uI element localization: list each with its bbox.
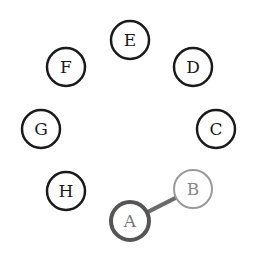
node-e: E xyxy=(111,21,149,59)
nodes-layer: EFDGCHAB xyxy=(22,21,235,240)
edges-layer xyxy=(147,198,176,213)
node-label: B xyxy=(187,179,200,199)
node-label: D xyxy=(186,57,200,77)
edge-a-b xyxy=(147,198,176,213)
node-label: G xyxy=(34,119,48,139)
node-f: F xyxy=(47,48,85,86)
node-label: E xyxy=(124,30,136,50)
node-label: F xyxy=(60,57,72,77)
node-d: D xyxy=(174,48,212,86)
node-b: B xyxy=(174,170,212,208)
node-label: C xyxy=(209,119,222,139)
node-label: A xyxy=(123,211,137,231)
node-h: H xyxy=(47,172,85,210)
node-a: A xyxy=(111,202,149,240)
node-c: C xyxy=(197,110,235,148)
node-label: H xyxy=(59,181,74,201)
graph-diagram: EFDGCHAB xyxy=(0,0,256,255)
node-g: G xyxy=(22,110,60,148)
